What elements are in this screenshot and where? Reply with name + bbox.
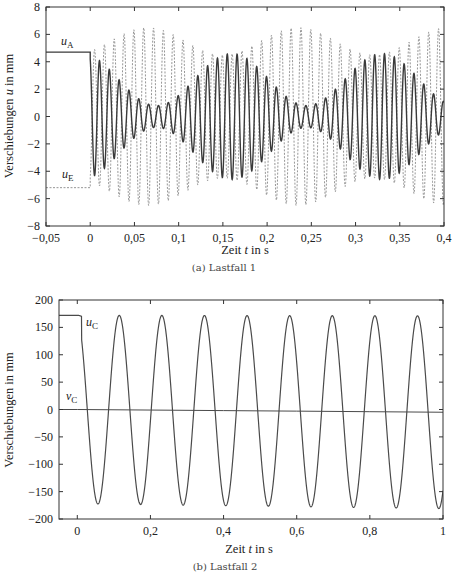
y-tick-label: −6 xyxy=(27,192,40,206)
series-label-v-c: vC xyxy=(66,389,77,405)
y-axis-label-b: Verschiebungen in mm xyxy=(2,352,16,468)
x-tick-label: 0 xyxy=(74,524,80,538)
axis-ticks-b: 00,20,40,60,81200150100500−50−100−150−20… xyxy=(28,293,446,538)
plot-area-b xyxy=(59,315,443,508)
x-tick-label: 0,1 xyxy=(171,231,186,245)
y-tick-label: 2 xyxy=(34,82,40,96)
caption-a: (a) Lastfall 1 xyxy=(192,262,256,273)
series-line-u-c xyxy=(59,315,443,508)
x-tick-label: 1 xyxy=(440,524,446,538)
figure: −0,0500,050,10,150,20,250,30,350,486420−… xyxy=(0,0,459,585)
y-tick-label: −4 xyxy=(27,164,40,178)
y-tick-label: 100 xyxy=(35,348,53,362)
x-tick-label: 0,6 xyxy=(289,524,304,538)
y-tick-label: 150 xyxy=(35,320,53,334)
x-tick-label: 0 xyxy=(87,231,93,245)
chart-lastfall-2: 00,20,40,60,81200150100500−50−100−150−20… xyxy=(2,293,446,572)
x-tick-label: 0,8 xyxy=(362,524,377,538)
x-tick-label: 0,35 xyxy=(389,231,410,245)
y-tick-label: 0 xyxy=(34,110,40,124)
series-label-u-c: uC xyxy=(86,315,98,331)
y-tick-label: −2 xyxy=(27,137,40,151)
y-tick-label: −100 xyxy=(28,457,53,471)
series-label-u-a: uA xyxy=(61,34,74,50)
chart-lastfall-1: −0,0500,050,10,150,20,250,30,350,486420−… xyxy=(2,0,452,273)
series-label-u-e: uE xyxy=(62,167,74,183)
x-tick-label: −0,05 xyxy=(32,231,60,245)
y-axis-label-a: Verschiebungen u in mm xyxy=(2,53,16,178)
x-axis-label-b: Zeit t in s xyxy=(225,542,273,556)
y-tick-label: 4 xyxy=(34,55,40,69)
y-tick-label: −50 xyxy=(34,430,53,444)
plot-area-a xyxy=(46,28,444,206)
y-tick-label: −8 xyxy=(27,219,40,233)
y-tick-label: 8 xyxy=(34,0,40,14)
y-tick-label: 6 xyxy=(34,27,40,41)
y-tick-label: 200 xyxy=(35,293,53,307)
x-tick-label: 0,4 xyxy=(216,524,231,538)
y-tick-label: −150 xyxy=(28,485,53,499)
y-tick-label: 0 xyxy=(47,403,53,417)
y-tick-label: −200 xyxy=(28,512,53,526)
x-tick-label: 0,2 xyxy=(143,524,158,538)
x-tick-label: 0,4 xyxy=(437,231,452,245)
y-tick-label: 50 xyxy=(41,375,53,389)
caption-b: (b) Lastfall 2 xyxy=(193,561,258,572)
x-tick-label: 0,05 xyxy=(124,231,145,245)
x-tick-label: 0,3 xyxy=(348,231,363,245)
x-axis-label-a: Zeit t in s xyxy=(221,243,269,257)
x-tick-label: 0,25 xyxy=(301,231,322,245)
